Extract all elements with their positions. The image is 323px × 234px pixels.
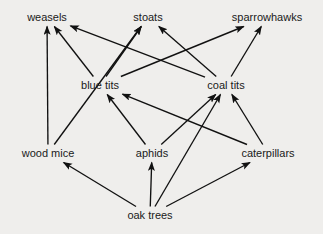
edge-coal-tits-to-stoats: coal tits eaten by stoats [159, 27, 216, 77]
node-wood-mice: wood mice [22, 147, 75, 159]
node-sparrowhawks: sparrowhawks [232, 11, 302, 23]
edge-oak-trees-to-wood-mice: oak trees eaten by wood mice [64, 163, 136, 207]
edge-layer: wood mice eaten by weaselswood mice eate… [47, 26, 263, 207]
edge-caterpillars-to-blue-tits: caterpillars eaten by blue tits [123, 94, 248, 144]
node-blue-tits: blue tits [81, 79, 119, 91]
edge-caterpillars-to-coal-tits: caterpillars eaten by coal tits [232, 95, 263, 145]
node-aphids: aphids [136, 147, 168, 159]
edge-oak-trees-to-aphids: oak trees eaten by aphids [150, 163, 151, 207]
node-stoats: stoats [133, 11, 162, 23]
edge-aphids-to-coal-tits: aphids eaten by coal tits [161, 95, 215, 145]
edge-wood-mice-to-weasels: wood mice eaten by weasels [47, 27, 48, 145]
node-oak-trees: oak trees [127, 209, 172, 221]
node-weasels: weasels [27, 11, 67, 23]
edge-blue-tits-to-weasels: blue tits eaten by weasels [54, 27, 93, 77]
node-coal-tits: coal tits [207, 79, 244, 91]
node-caterpillars: caterpillars [241, 147, 294, 159]
edge-coal-tits-to-sparrowhawks: coal tits eaten by sparrowhawks [231, 27, 261, 77]
food-web-arrows: wood mice eaten by weaselswood mice eate… [0, 0, 323, 234]
edge-oak-trees-to-caterpillars: oak trees eaten by caterpillars [166, 163, 250, 207]
food-web-diagram: wood mice eaten by weaselswood mice eate… [0, 0, 323, 234]
edge-aphids-to-blue-tits: aphids eaten by blue tits [107, 95, 145, 145]
